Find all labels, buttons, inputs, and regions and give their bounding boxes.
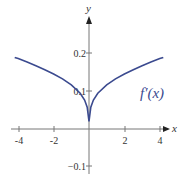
x-tick-label: -4 — [15, 135, 23, 146]
x-tick-label: -2 — [50, 135, 58, 146]
y-axis-arrow-icon — [86, 16, 92, 24]
x-tick-label: 2 — [123, 135, 128, 146]
y-axis-label: y — [85, 2, 91, 14]
x-axis-label: x — [171, 122, 177, 134]
derivative-chart: x y -4 -2 2 4 0.2 0.1 −0.1 f′(x) — [0, 0, 189, 177]
y-tick-label: −0.1 — [68, 161, 86, 172]
x-axis-arrow-icon — [163, 126, 170, 132]
y-tick-label: 0.2 — [74, 48, 87, 59]
series-label: f′(x) — [140, 85, 164, 102]
x-tick-label: 4 — [158, 135, 163, 146]
y-ticks: 0.2 0.1 −0.1 — [68, 48, 92, 172]
